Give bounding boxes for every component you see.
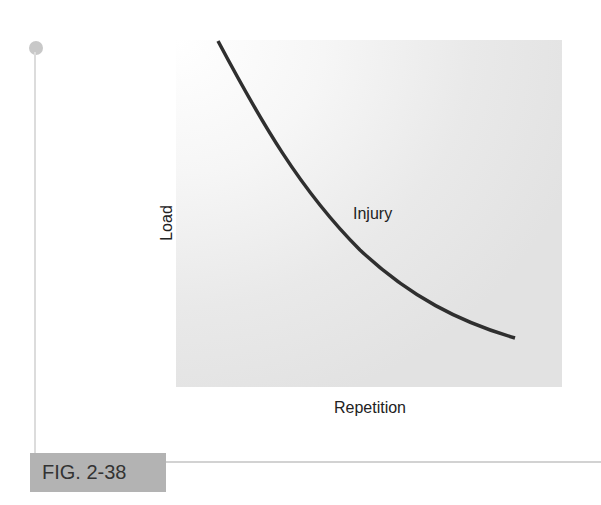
injury-curve (0, 0, 601, 505)
y-axis-label: Load (158, 198, 176, 248)
curve-label: Injury (353, 205, 392, 223)
figure-tag: FIG. 2-38 (30, 453, 166, 492)
figure-number: FIG. 2-38 (42, 461, 126, 484)
x-axis-label: Repetition (280, 399, 460, 417)
